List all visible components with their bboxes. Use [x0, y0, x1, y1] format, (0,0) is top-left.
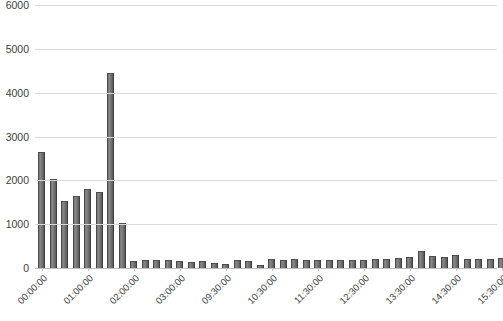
bar	[429, 256, 436, 268]
y-axis-tick-label: 6000	[6, 0, 29, 10]
x-axis-labels: 00:00:0001:00:0002:00:0003:00:0009:30:00…	[0, 268, 503, 321]
bar	[337, 260, 344, 268]
bar	[291, 259, 298, 268]
bar	[314, 260, 321, 268]
x-axis-tick	[42, 268, 43, 271]
x-axis-tick	[456, 268, 457, 271]
bar	[107, 73, 114, 268]
x-axis-tick	[226, 268, 227, 271]
x-axis-tick	[410, 268, 411, 271]
x-axis-tick	[272, 268, 273, 271]
plot-area	[35, 5, 497, 268]
bar	[383, 259, 390, 268]
bar	[142, 260, 149, 268]
y-axis-tick-label: 5000	[6, 44, 29, 54]
x-axis-tick	[502, 268, 503, 271]
y-axis-tick-label: 1000	[6, 219, 29, 229]
bar	[130, 261, 137, 268]
bar	[487, 259, 494, 268]
x-axis-tick	[180, 268, 181, 271]
x-axis-tick	[88, 268, 89, 271]
bar	[119, 223, 126, 268]
bar	[464, 259, 471, 268]
bar	[268, 259, 275, 268]
bar	[153, 260, 160, 268]
gridline	[35, 5, 497, 6]
bar	[498, 258, 503, 268]
bar	[96, 192, 103, 268]
bar	[326, 260, 333, 268]
bar	[452, 255, 459, 268]
gridline	[35, 180, 497, 181]
x-axis-tick	[318, 268, 319, 271]
bar	[303, 260, 310, 268]
bar	[61, 201, 68, 269]
bar	[360, 260, 367, 268]
x-axis-tick	[364, 268, 365, 271]
bar	[372, 259, 379, 268]
y-axis-labels: 0100020003000400050006000	[0, 0, 33, 280]
bar	[165, 260, 172, 268]
y-axis-tick-label: 2000	[6, 175, 29, 185]
y-axis-tick-label: 3000	[6, 132, 29, 142]
bar	[84, 189, 91, 268]
bar	[441, 257, 448, 268]
gridline	[35, 93, 497, 94]
bar	[38, 152, 45, 268]
x-axis-tick	[134, 268, 135, 271]
bar	[245, 261, 252, 268]
gridline	[35, 224, 497, 225]
bar-chart: 0100020003000400050006000 00:00:0001:00:…	[0, 0, 503, 321]
bar	[280, 260, 287, 268]
bar	[475, 259, 482, 268]
bar	[199, 261, 206, 268]
bar	[349, 260, 356, 268]
x-axis-tick-label: 00:00:00	[0, 273, 49, 321]
bar	[406, 257, 413, 268]
y-axis-tick-label: 4000	[6, 88, 29, 98]
bar	[73, 196, 80, 268]
bar	[395, 258, 402, 268]
gridline	[35, 49, 497, 50]
gridline	[35, 137, 497, 138]
bar	[234, 260, 241, 268]
bar	[418, 251, 425, 268]
